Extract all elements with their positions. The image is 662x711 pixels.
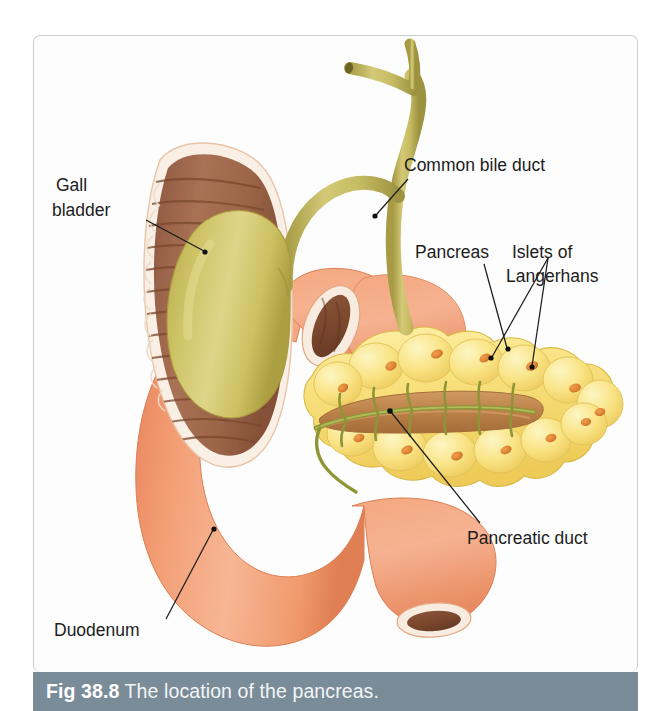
label-duodenum: Duodenum xyxy=(54,620,140,640)
illustration-panel: Gall bladder Common bile duct Pancreas I… xyxy=(33,35,638,672)
figure-number: Fig 38.8 xyxy=(46,680,119,702)
figure-caption-bar: Fig 38.8 The location of the pancreas. xyxy=(33,672,638,711)
label-pancreatic-duct: Pancreatic duct xyxy=(467,528,588,548)
figure-caption: Fig 38.8 The location of the pancreas. xyxy=(46,682,379,702)
pancreas-anatomy-illustration: Gall bladder Common bile duct Pancreas I… xyxy=(34,36,638,672)
label-gall-bladder-line2: bladder xyxy=(52,200,111,220)
label-pancreas: Pancreas xyxy=(415,242,489,262)
label-islets-line1: Islets of xyxy=(512,242,572,262)
label-common-bile-duct: Common bile duct xyxy=(404,155,545,175)
label-islets-line2: Langerhans xyxy=(506,266,599,286)
label-gall-bladder-line1: Gall xyxy=(56,175,87,195)
hepatic-duct-branch xyxy=(350,68,414,90)
figure-caption-title: The location of the pancreas. xyxy=(119,680,379,702)
figure-root: Gall bladder Common bile duct Pancreas I… xyxy=(0,0,662,711)
hepatic-duct-branch-right xyxy=(410,44,415,84)
